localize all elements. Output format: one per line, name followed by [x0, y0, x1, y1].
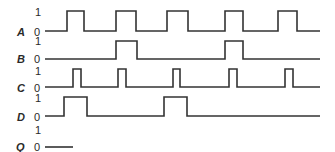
signal-a-name: A: [16, 26, 25, 38]
signal-a-high-label: 1: [35, 6, 41, 18]
signal-c: 1 C 0: [17, 65, 320, 94]
signal-b-name: B: [17, 53, 25, 65]
signal-b-low-label: 0: [34, 53, 40, 65]
signal-c-waveform: [45, 69, 320, 87]
signal-d-high-label: 1: [35, 92, 41, 104]
signal-d-low-label: 0: [34, 111, 40, 123]
signal-d-waveform: [45, 97, 320, 116]
timing-diagram: 1 A 0 1 B 0 1 C 0 1 D 0 1 Q 0: [0, 0, 335, 152]
signal-b-waveform: [45, 41, 320, 59]
signal-c-name: C: [17, 82, 26, 94]
signal-q-low-label: 0: [34, 141, 40, 152]
signal-b: 1 B 0: [17, 35, 320, 65]
signal-q-name: Q: [16, 141, 25, 152]
signal-a-waveform: [45, 11, 320, 31]
signal-d: 1 D 0: [17, 92, 320, 123]
signal-q-high-label: 1: [35, 124, 41, 136]
signal-b-high-label: 1: [35, 35, 41, 47]
signal-c-high-label: 1: [35, 65, 41, 77]
signal-a: 1 A 0: [16, 6, 320, 38]
signal-q: 1 Q 0: [16, 124, 73, 152]
signal-d-name: D: [17, 111, 25, 123]
